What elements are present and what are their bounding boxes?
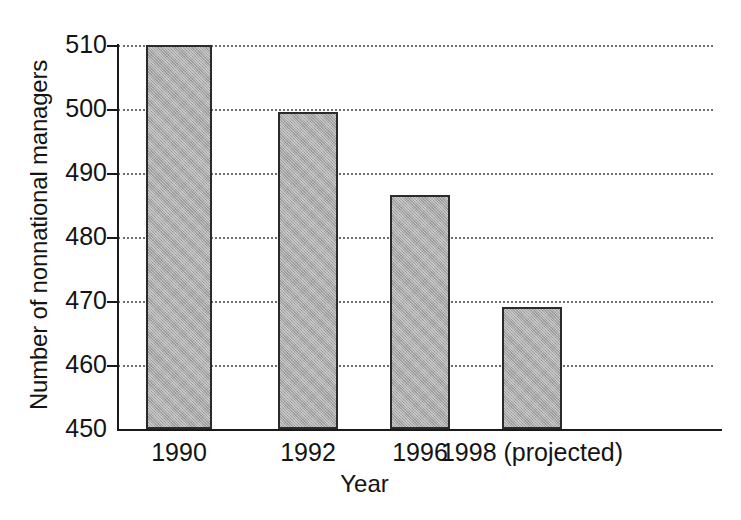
y-axis-tick-label: 500 bbox=[45, 96, 107, 121]
x-axis-tick-label: 1998 (projected) bbox=[402, 437, 662, 467]
bar-chart: Number of nonnational managers 510500490… bbox=[0, 0, 741, 520]
y-axis-tick-label: 490 bbox=[45, 160, 107, 185]
y-axis-tick-label: 460 bbox=[45, 352, 107, 377]
plot-area bbox=[118, 45, 713, 429]
y-axis-tick-label: 510 bbox=[45, 32, 107, 57]
y-axis-tick-mark bbox=[107, 45, 119, 47]
y-axis-tick-mark bbox=[107, 173, 119, 175]
x-axis-title: Year bbox=[0, 470, 741, 498]
y-axis-tick-label: 480 bbox=[45, 224, 107, 249]
y-axis-tick-mark bbox=[107, 365, 119, 367]
y-axis-tick-mark bbox=[107, 237, 119, 239]
bar[interactable] bbox=[278, 112, 338, 429]
y-axis-tick-mark bbox=[107, 301, 119, 303]
x-axis-line bbox=[117, 429, 722, 431]
y-axis-tick-mark bbox=[107, 109, 119, 111]
bar[interactable] bbox=[146, 45, 212, 429]
x-axis-title-text: Year bbox=[340, 470, 389, 498]
y-axis-tick-label: 470 bbox=[45, 288, 107, 313]
bar[interactable] bbox=[390, 195, 450, 429]
bar[interactable] bbox=[502, 307, 562, 429]
